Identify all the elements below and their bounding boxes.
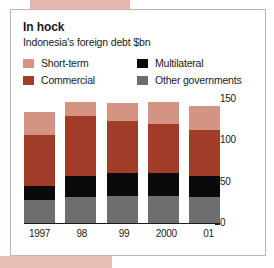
chart-legend: Short-term Commercial Multilateral Other… xyxy=(23,55,255,89)
y-axis-ticks: 050100150 xyxy=(220,93,260,229)
bar-segment xyxy=(24,135,55,186)
x-axis-labels: 19979899200001 xyxy=(24,228,224,239)
bar-segment xyxy=(65,102,96,116)
bar-segment xyxy=(189,197,220,223)
legend-column-right: Multilateral Other governments xyxy=(137,55,253,89)
legend-swatch-other-governments xyxy=(137,76,148,85)
chart-page: In hock Indonesia's foreign debt $bn Sho… xyxy=(0,0,274,268)
page-bleed-top xyxy=(30,0,130,9)
bar-segment xyxy=(65,197,96,223)
y-tick-150: 150 xyxy=(220,93,236,104)
x-label-98: 98 xyxy=(66,228,97,239)
x-label-2000: 2000 xyxy=(151,228,182,239)
legend-item-short-term: Short-term xyxy=(23,55,137,71)
bar-1997 xyxy=(24,112,55,223)
bar-segment xyxy=(148,102,179,123)
bar-segment xyxy=(148,173,179,195)
bar-segment xyxy=(189,106,220,130)
page-bleed-bottom xyxy=(0,256,112,268)
legend-label-commercial: Commercial xyxy=(41,74,95,86)
x-label-99: 99 xyxy=(109,228,140,239)
bar-2000 xyxy=(148,102,179,223)
legend-column-left: Short-term Commercial xyxy=(23,55,137,89)
legend-swatch-commercial xyxy=(23,76,34,85)
y-tick-100: 100 xyxy=(220,134,236,145)
x-label-01: 01 xyxy=(193,228,224,239)
y-tick-50: 50 xyxy=(220,176,231,187)
legend-label-multilateral: Multilateral xyxy=(155,57,203,69)
bar-segment xyxy=(189,176,220,197)
bar-segment xyxy=(24,186,55,200)
bar-segment xyxy=(148,196,179,223)
x-label-1997: 1997 xyxy=(24,228,55,239)
chart-subtitle: Indonesia's foreign debt $bn xyxy=(23,36,150,48)
bar-segment xyxy=(107,173,138,195)
bar-segment xyxy=(24,200,55,223)
plot-area xyxy=(24,99,220,224)
bar-segment xyxy=(24,112,55,134)
bar-segment xyxy=(107,103,138,121)
bar-segment xyxy=(107,196,138,223)
legend-swatch-multilateral xyxy=(137,59,148,68)
x-axis-line xyxy=(24,223,220,225)
legend-item-multilateral: Multilateral xyxy=(137,55,253,71)
bar-segment xyxy=(65,116,96,176)
bar-segment xyxy=(65,176,96,197)
bar-99 xyxy=(107,103,138,223)
bar-01 xyxy=(189,106,220,223)
legend-item-other-governments: Other governments xyxy=(137,72,253,88)
legend-label-other-governments: Other governments xyxy=(155,74,241,86)
bar-segment xyxy=(148,124,179,174)
legend-label-short-term: Short-term xyxy=(41,57,89,69)
bar-segment xyxy=(189,130,220,175)
legend-swatch-short-term xyxy=(23,59,34,68)
chart-title: In hock xyxy=(23,20,64,34)
bar-segment xyxy=(107,121,138,173)
y-tick-mark-0 xyxy=(215,223,220,225)
bar-98 xyxy=(65,102,96,223)
bar-group xyxy=(24,99,220,223)
y-tick-0: 0 xyxy=(220,217,225,228)
legend-item-commercial: Commercial xyxy=(23,72,137,88)
